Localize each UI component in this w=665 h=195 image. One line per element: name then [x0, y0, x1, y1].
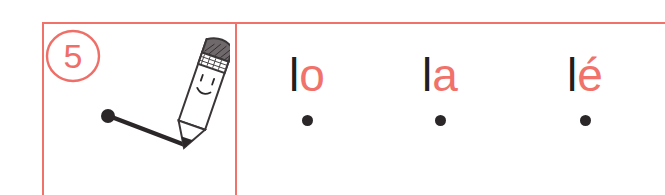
exercise-number-text: 5	[64, 37, 83, 75]
syllable-consonant: l	[422, 49, 432, 101]
syllable-vowel: a	[432, 49, 458, 101]
tracing-start-dot	[302, 115, 313, 126]
syllable-vowel: o	[299, 49, 325, 101]
stroke-path	[101, 109, 185, 145]
pencil-body	[171, 35, 230, 152]
syllable-text-la: la	[380, 52, 500, 100]
syllable-vowel: é	[577, 49, 603, 101]
syllable-text-lo: lo	[247, 52, 367, 100]
syllable-row: lo la lé	[237, 24, 665, 195]
worksheet-exercise-row: 5	[0, 0, 665, 195]
syllable-consonant: l	[289, 49, 299, 101]
tracing-start-dot	[580, 115, 591, 126]
stroke-start-dot	[101, 109, 115, 123]
tracing-start-dot	[435, 115, 446, 126]
syllable-cell-la[interactable]: la	[380, 52, 500, 126]
syllable-text-le-accent: lé	[525, 52, 645, 100]
syllable-cell-le-accent[interactable]: lé	[525, 52, 645, 126]
syllable-cell-lo[interactable]: lo	[247, 52, 367, 126]
syllable-consonant: l	[567, 49, 577, 101]
pencil-illustration	[85, 28, 230, 158]
